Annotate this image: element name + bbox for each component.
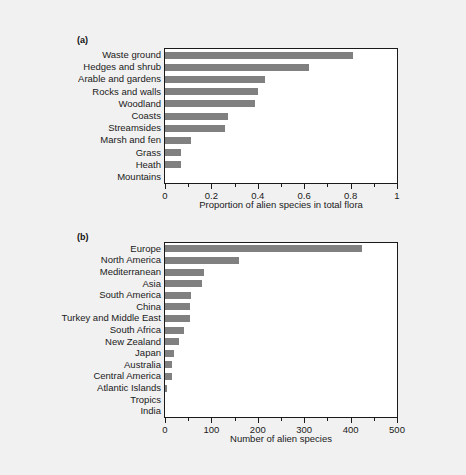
bar: [165, 338, 179, 345]
category-label: South Africa: [110, 325, 161, 335]
bar: [165, 161, 181, 168]
x-minor-tick: [374, 184, 375, 187]
x-tick: [304, 184, 305, 189]
category-label: New Zealand: [105, 337, 161, 347]
category-label: India: [140, 406, 161, 416]
category-label: Atlantic Islands: [97, 383, 161, 393]
x-tick: [351, 184, 352, 189]
category-label: Australia: [124, 360, 161, 370]
panel-b-x-axis-title: Number of alien species: [230, 433, 332, 444]
x-tick: [397, 184, 398, 189]
category-label: Mountains: [117, 172, 161, 182]
category-label: Arable and gardens: [78, 75, 161, 85]
x-minor-tick: [327, 184, 328, 187]
bar: [165, 269, 204, 276]
panel-a-plot-area: [164, 48, 398, 184]
bar: [165, 125, 225, 132]
category-label: Europe: [130, 244, 161, 254]
x-tick: [304, 418, 305, 423]
category-label: South America: [99, 290, 161, 300]
category-label: Turkey and Middle East: [62, 314, 161, 324]
x-minor-tick: [281, 418, 282, 421]
panel-a-category-labels: Waste groundHedges and shrubArable and g…: [60, 52, 161, 180]
x-tick-label: 0: [162, 190, 167, 201]
category-label: Mediterranean: [100, 267, 161, 277]
category-label: Coasts: [131, 111, 161, 121]
category-label: China: [136, 302, 161, 312]
x-tick: [165, 418, 166, 423]
category-label: Waste ground: [102, 50, 161, 60]
panel-label-b: (b): [77, 232, 89, 242]
x-minor-tick: [235, 418, 236, 421]
bar: [165, 385, 167, 392]
bar: [165, 76, 265, 83]
category-label: Asia: [143, 279, 161, 289]
category-label: Japan: [135, 348, 161, 358]
category-label: Hedges and shrub: [83, 63, 161, 73]
category-label: Grass: [136, 148, 161, 158]
panel-b-plot-area: [164, 242, 398, 418]
category-label: Rocks and walls: [92, 87, 161, 97]
x-tick: [397, 418, 398, 423]
bar: [165, 303, 190, 310]
bar: [165, 100, 255, 107]
category-label: North America: [101, 256, 161, 266]
category-label: Woodland: [118, 99, 161, 109]
x-tick: [165, 184, 166, 189]
x-tick: [351, 418, 352, 423]
x-minor-tick: [235, 184, 236, 187]
bar: [165, 361, 172, 368]
x-tick-label: 0: [162, 424, 167, 435]
category-label: Tropics: [130, 395, 161, 405]
bar: [165, 52, 353, 59]
panel-a-x-axis-title: Proportion of alien species in total flo…: [199, 199, 363, 210]
x-minor-tick: [188, 418, 189, 421]
x-tick: [211, 184, 212, 189]
bar: [165, 292, 191, 299]
x-tick-label: 1: [394, 190, 399, 201]
x-tick: [258, 418, 259, 423]
x-tick-label: 100: [203, 424, 219, 435]
panel-label-a: (a): [77, 35, 88, 45]
bar: [165, 137, 191, 144]
panel-b: (b) EuropeNorth AmericaMediterraneanAsia…: [0, 220, 466, 475]
x-tick: [258, 184, 259, 189]
bar: [165, 245, 362, 252]
bar: [165, 88, 258, 95]
bar: [165, 113, 228, 120]
x-minor-tick: [374, 418, 375, 421]
category-label: Heath: [136, 160, 161, 170]
x-tick-label: 500: [389, 424, 405, 435]
category-label: Marsh and fen: [100, 136, 161, 146]
bar: [165, 315, 190, 322]
x-minor-tick: [188, 184, 189, 187]
bar: [165, 257, 239, 264]
figure-container: (a) Waste groundHedges and shrubArable a…: [0, 0, 466, 475]
panel-a-bars: [165, 49, 397, 183]
x-tick: [211, 418, 212, 423]
bar: [165, 64, 309, 71]
bar: [165, 149, 181, 156]
bar: [165, 373, 172, 380]
category-label: Streamsides: [108, 123, 161, 133]
x-minor-tick: [281, 184, 282, 187]
category-label: Central America: [93, 372, 161, 382]
panel-b-bars: [165, 243, 397, 417]
x-tick-label: 400: [343, 424, 359, 435]
bar: [165, 327, 184, 334]
bar: [165, 350, 174, 357]
panel-a: (a) Waste groundHedges and shrubArable a…: [0, 0, 466, 220]
x-minor-tick: [327, 418, 328, 421]
bar: [165, 280, 202, 287]
panel-b-category-labels: EuropeNorth AmericaMediterraneanAsiaSout…: [55, 246, 161, 414]
